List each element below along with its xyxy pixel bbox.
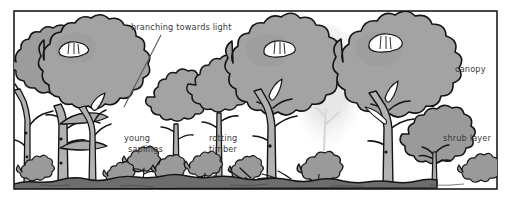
label-young-saplings-line2: saplings	[128, 144, 163, 154]
forest-illustration-svg: branching towards light young saplings r…	[0, 0, 512, 201]
label-canopy: canopy	[455, 64, 486, 74]
label-rotting-timber-line2: timber	[209, 144, 237, 154]
label-rotting-timber-line1: rotting	[209, 133, 237, 143]
canopy-gap-centre	[264, 41, 296, 57]
forest-structure-diagram: branching towards light young saplings r…	[0, 0, 512, 201]
label-branching-towards-light: branching towards light	[131, 22, 232, 32]
label-shrub-layer: shrub layer	[443, 133, 491, 143]
label-young-saplings-line1: young	[124, 133, 150, 143]
